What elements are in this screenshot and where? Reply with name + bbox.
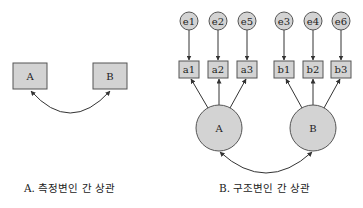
error-node-e5-label: e5	[241, 16, 253, 27]
indicator-node-b1-label: b1	[278, 64, 291, 75]
observed-node-a-label: A	[25, 71, 34, 82]
latent-node-a-label: A	[214, 123, 223, 134]
indicator-node-a3-label: a3	[241, 64, 253, 75]
panel-a: A B	[13, 63, 127, 113]
error-node-e3-label: e3	[278, 16, 290, 27]
loading-arrows	[191, 79, 340, 108]
panel-b: e1 e2 e5 e3 e4 e6 a1 a2 a3 b1 b2 b3	[179, 12, 351, 173]
indicator-node-b3-label: b3	[335, 64, 348, 75]
indicator-node-a2-label: a2	[212, 64, 224, 75]
correlation-arrow-a	[31, 91, 110, 113]
error-node-e2-label: e2	[212, 16, 224, 27]
error-nodes: e1 e2 e5 e3 e4 e6	[180, 12, 350, 30]
indicator-node-a1-label: a1	[183, 64, 195, 75]
error-node-e4-label: e4	[307, 16, 319, 27]
indicator-nodes: a1 a2 a3 b1 b2 b3	[179, 61, 351, 78]
caption-panel-b: B. 구조변인 간 상관	[219, 180, 310, 195]
latent-nodes: A B	[196, 105, 336, 151]
error-node-e6-label: e6	[335, 16, 347, 27]
sem-diagram: A B e1 e2 e5	[0, 0, 363, 208]
latent-node-b-label: B	[309, 123, 316, 134]
observed-node-b-label: B	[106, 71, 113, 82]
indicator-node-b2-label: b2	[307, 64, 320, 75]
caption-panel-a: A. 측정변인 간 상관	[24, 180, 115, 195]
error-arrows	[189, 30, 341, 60]
correlation-arrow-b	[220, 152, 312, 173]
error-node-e1-label: e1	[183, 16, 195, 27]
